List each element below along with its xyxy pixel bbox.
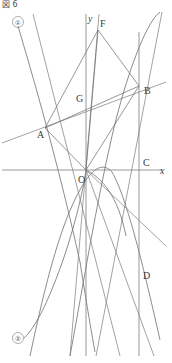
branch-1-label: ① (15, 19, 21, 27)
figure-container: 図 6 (0, 0, 172, 363)
curve-through-O-to-right (86, 170, 126, 236)
branch-marker-1: ① (13, 17, 24, 28)
axis-labels-group: y x (87, 13, 165, 176)
axes-group (2, 14, 162, 356)
branch-2-label: ② (15, 335, 21, 343)
point-label-O: O (78, 174, 85, 185)
point-label-C: C (143, 157, 150, 168)
geometry-plot: y x A B C D F G O ① ② (0, 0, 172, 363)
segment-A-B (45, 86, 139, 128)
point-label-D: D (143, 270, 150, 281)
polygon-segments-group (45, 30, 139, 170)
point-label-A: A (37, 129, 45, 140)
point-label-B: B (144, 85, 151, 96)
point-label-F: F (100, 18, 106, 29)
line-A-extended-left (2, 82, 166, 143)
x-axis-label: x (159, 165, 165, 176)
parabola-upward-left-branch-1 (18, 26, 95, 352)
point-label-G: G (76, 93, 83, 104)
cubic-branch-lower-left-to-2 (24, 172, 86, 338)
segment-F-B (98, 30, 139, 86)
point-labels-group: A B C D F G O (37, 18, 151, 281)
branch-marker-2: ② (13, 333, 24, 344)
segment-A-F (45, 30, 98, 128)
segment-O-B (86, 86, 139, 170)
line-through-A-down-right (33, 14, 120, 356)
segment-A-O (45, 128, 86, 170)
y-axis-label: y (87, 13, 93, 24)
segment-O-F (86, 30, 98, 170)
